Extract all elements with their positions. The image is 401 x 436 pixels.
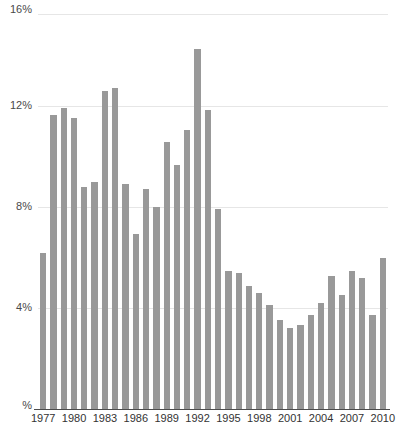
bar [266, 305, 272, 409]
bar [164, 142, 170, 409]
bar [328, 276, 334, 409]
bar [71, 118, 77, 409]
x-tick-label: 2010 [371, 412, 395, 424]
bar [318, 303, 324, 409]
bar-chart: 16% 12% 8% 4% % 197719801983198619891992… [0, 0, 401, 436]
bar [143, 189, 149, 409]
bar [205, 110, 211, 409]
plot-area [38, 14, 388, 409]
x-tick-label: 1992 [185, 412, 209, 424]
bar [153, 207, 159, 409]
x-axis-labels: 1977198019831986198919921995199820012004… [38, 412, 388, 432]
bar [349, 271, 355, 409]
x-tick-label: 1986 [124, 412, 148, 424]
bar [256, 293, 262, 409]
bar [369, 315, 375, 409]
x-tick-label: 1977 [31, 412, 55, 424]
x-tick-label: 1980 [62, 412, 86, 424]
bars-container [38, 14, 388, 409]
bar [102, 91, 108, 409]
x-tick-label: 2001 [278, 412, 302, 424]
x-tick-label: 2004 [309, 412, 333, 424]
bar [194, 49, 200, 409]
bar [225, 271, 231, 409]
bar [122, 184, 128, 409]
x-tick-label: 1995 [216, 412, 240, 424]
bar [287, 328, 293, 409]
x-tick-label: 1983 [93, 412, 117, 424]
bar [61, 108, 67, 409]
bar [40, 253, 46, 409]
bar [246, 286, 252, 409]
y-tick-label-16: 16% [10, 4, 32, 15]
bar [339, 295, 345, 409]
x-tick-label: 1989 [154, 412, 178, 424]
x-tick-label: 2007 [340, 412, 364, 424]
bar [184, 130, 190, 409]
y-tick-label-4: 4% [16, 302, 32, 313]
bar [236, 273, 242, 409]
bar [112, 88, 118, 409]
y-tick-label-0: % [22, 400, 32, 411]
bar [380, 258, 386, 409]
bar [133, 234, 139, 409]
bar [297, 325, 303, 409]
bar [308, 315, 314, 409]
bar [215, 209, 221, 409]
y-tick-label-8: 8% [16, 201, 32, 212]
x-tick-label: 1998 [247, 412, 271, 424]
bar [359, 278, 365, 409]
bar [174, 165, 180, 409]
bar [91, 182, 97, 409]
bar [50, 115, 56, 409]
bar [81, 187, 87, 409]
x-axis-line [34, 409, 390, 410]
y-axis-labels: 16% 12% 8% 4% % [0, 0, 32, 436]
y-tick-label-12: 12% [10, 100, 32, 111]
bar [277, 320, 283, 409]
